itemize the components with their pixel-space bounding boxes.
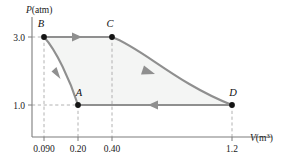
state-point-b — [41, 34, 47, 40]
state-label-c: C — [106, 18, 114, 29]
x-tick-label-0.20: 0.20 — [70, 144, 87, 154]
state-label-b: B — [38, 18, 45, 29]
state-label-d: D — [228, 87, 237, 98]
state-point-c — [109, 34, 115, 40]
x-tick-label-1.2: 1.2 — [226, 144, 238, 154]
x-axis-title: V(m3) — [250, 132, 273, 145]
state-label-a: A — [75, 87, 83, 98]
arrow-head-b-to-a — [52, 67, 61, 79]
y-axis-title: P(atm) — [25, 5, 52, 16]
y-axis-title-unit: (atm) — [32, 5, 53, 16]
state-point-d — [229, 102, 235, 108]
y-tick-label-3.0: 3.0 — [13, 33, 25, 43]
y-tick-label-1.0: 1.0 — [13, 101, 25, 111]
pv-diagram-figure: B C A D 3.0 1.0 0.090 0.20 0.40 1.2 P(at… — [0, 0, 289, 162]
x-axis-title-unit-pre: (m — [256, 133, 267, 144]
x-tick-label-0.40: 0.40 — [104, 144, 121, 154]
x-axis-title-unit-post: ) — [270, 133, 273, 144]
state-point-a — [75, 102, 81, 108]
x-tick-label-0.090: 0.090 — [33, 144, 55, 154]
pv-diagram-svg: B C A D 3.0 1.0 0.090 0.20 0.40 1.2 P(at… — [0, 0, 289, 162]
cycle-shaded-region — [44, 37, 232, 105]
